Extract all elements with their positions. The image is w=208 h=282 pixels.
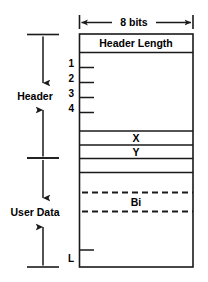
octet-tick-label-4: 4 [68,103,74,114]
side-bracket-user-data: User Data [10,158,59,267]
diagram-canvas: 8 bits Header Length X Y Bi 1 2 3 4 [0,0,208,282]
side-bracket-label-header: Header [17,90,53,102]
side-bracket-label-user-data: User Data [10,206,59,218]
octet-tick-label-2: 2 [68,73,74,84]
field-label-bi: Bi [131,196,142,208]
pdu-structure-diagram: 8 bits Header Length X Y Bi 1 2 3 4 [0,0,208,282]
width-dimension-label: 8 bits [120,16,148,28]
octet-tick-group: 1 2 3 4 [68,58,94,114]
octet-tick-label-3: 3 [68,88,74,99]
bottom-tick-label-l: L [68,253,74,264]
width-dimension-group: 8 bits [80,15,194,29]
octet-tick-label-1: 1 [68,58,74,69]
side-bracket-header: Header [17,35,59,159]
field-label-x: X [132,132,139,144]
field-label-y: Y [132,146,139,158]
bottom-tick-group: L [68,250,94,264]
field-label-header-length: Header Length [99,37,173,49]
